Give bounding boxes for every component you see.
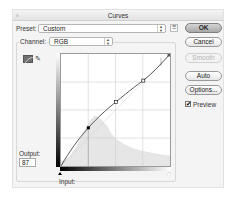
input-gradient-bar xyxy=(60,167,171,171)
options-button[interactable]: Options... xyxy=(185,85,222,95)
channel-select[interactable]: RGB ▲▼ xyxy=(49,37,113,46)
curve-tool-icon xyxy=(25,57,33,63)
preview-checkbox[interactable]: ✔ xyxy=(185,101,191,107)
cancel-button[interactable]: Cancel xyxy=(185,37,222,47)
preset-select[interactable]: Custom ▲▼ xyxy=(38,24,166,33)
white-point-slider[interactable] xyxy=(167,172,171,175)
ok-button[interactable]: OK xyxy=(185,23,222,33)
pencil-icon: ✎ xyxy=(35,55,41,62)
select-arrows-icon: ▲▼ xyxy=(104,38,111,45)
black-point-slider[interactable] xyxy=(58,172,62,175)
curve-graph-canvas xyxy=(61,54,170,166)
channel-label: Channel: xyxy=(19,38,47,45)
input-label: Input: xyxy=(59,178,75,185)
window-title: Curves xyxy=(108,12,129,19)
preview-label: Preview xyxy=(193,101,216,108)
curves-dialog: Curves Preset: Custom ▲▼ ☰ OK Channel: R… xyxy=(12,9,224,188)
auto-button[interactable]: Auto xyxy=(185,71,222,81)
preset-value: Custom xyxy=(43,25,65,32)
pencil-tool-button[interactable]: ✎ xyxy=(35,55,45,63)
preset-options-button[interactable]: ☰ xyxy=(170,24,178,32)
channel-value: RGB xyxy=(54,38,68,45)
curve-point-tool-button[interactable] xyxy=(23,55,33,63)
window-close-dot[interactable] xyxy=(16,14,19,17)
title-bar[interactable]: Curves xyxy=(13,10,223,21)
curve-point xyxy=(114,101,117,104)
preset-options-icon: ☰ xyxy=(172,25,176,30)
smooth-button: Smooth xyxy=(185,53,222,63)
output-label: Output: xyxy=(19,150,40,157)
select-arrows-icon: ▲▼ xyxy=(157,25,164,32)
curve-endpoint xyxy=(168,54,171,57)
curve-graph[interactable] xyxy=(60,53,171,167)
output-field[interactable]: 87 xyxy=(19,158,36,167)
curve-point-selected xyxy=(87,126,90,129)
preset-label: Preset: xyxy=(16,25,37,32)
curve-point xyxy=(142,79,145,82)
